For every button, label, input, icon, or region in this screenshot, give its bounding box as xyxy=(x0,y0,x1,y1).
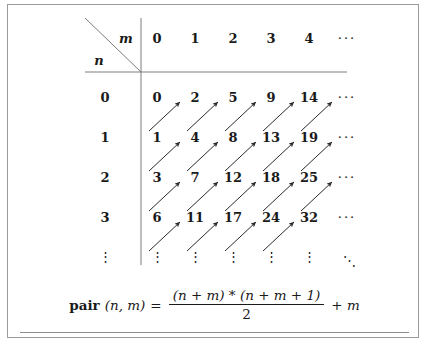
column-header-2: 2 xyxy=(228,32,237,45)
formula-numerator: (n + m) * (n + m + 1) xyxy=(169,287,325,304)
row-header-2: 2 xyxy=(100,171,109,184)
continuation-m2: ⋮ xyxy=(227,250,240,263)
table-cell-n3-m0: 6 xyxy=(152,211,161,224)
continuation-m1: ⋮ xyxy=(189,250,202,263)
row-1-ellipsis: ··· xyxy=(338,131,356,144)
row-2-ellipsis: ··· xyxy=(338,171,356,184)
row-0-ellipsis: ··· xyxy=(338,91,356,104)
continuation-diagonal-ellipsis: ⋱ xyxy=(343,254,356,267)
table-cell-n1-m3: 13 xyxy=(262,131,280,144)
axis-label-n: n xyxy=(94,54,103,67)
table-cell-n0-m0: 0 xyxy=(152,91,161,104)
table-cell-n1-m4: 19 xyxy=(300,131,318,144)
table-cell-n3-m2: 17 xyxy=(224,211,242,224)
row-header-1: 1 xyxy=(100,131,109,144)
table-cell-n0-m2: 5 xyxy=(228,91,237,104)
column-header-3: 3 xyxy=(266,32,275,45)
table-cell-n2-m1: 7 xyxy=(190,171,199,184)
table-cell-n3-m3: 24 xyxy=(262,211,280,224)
pair-function-formula: pair(n, m) = (n + m) * (n + m + 1) 2 + m xyxy=(0,287,429,322)
formula-arguments: (n, m) xyxy=(105,297,146,313)
table-cell-n0-m3: 9 xyxy=(266,91,275,104)
column-header-4: 4 xyxy=(304,32,313,45)
table-cell-n3-m4: 32 xyxy=(300,211,318,224)
row-3-ellipsis: ··· xyxy=(338,211,356,224)
table-cell-n0-m4: 14 xyxy=(300,91,318,104)
column-header-ellipsis: ··· xyxy=(338,32,356,45)
column-header-0: 0 xyxy=(152,32,161,45)
row-header-continuation: ⋮ xyxy=(99,250,112,263)
table-cell-n2-m2: 12 xyxy=(224,171,242,184)
bottom-rule xyxy=(20,332,409,333)
table-cell-n1-m2: 8 xyxy=(228,131,237,144)
table-cell-n2-m0: 3 xyxy=(152,171,161,184)
table-cell-n2-m3: 18 xyxy=(262,171,280,184)
table-cell-n0-m1: 2 xyxy=(190,91,199,104)
row-header-0: 0 xyxy=(100,91,109,104)
formula-equals: = xyxy=(150,297,161,313)
continuation-m4: ⋮ xyxy=(303,250,316,263)
table-cell-n2-m4: 25 xyxy=(300,171,318,184)
row-header-3: 3 xyxy=(100,211,109,224)
continuation-m0: ⋮ xyxy=(151,250,164,263)
formula-plus-term: + m xyxy=(331,297,359,313)
formula-fraction: (n + m) * (n + m + 1) 2 xyxy=(169,287,325,322)
figure-root: m n 0 1 2 3 4 ··· 0 0 2 5 9 14 ··· 1 1 4… xyxy=(0,0,429,343)
column-header-1: 1 xyxy=(190,32,199,45)
axis-label-m: m xyxy=(119,32,133,45)
formula-denominator: 2 xyxy=(238,305,255,322)
continuation-m3: ⋮ xyxy=(265,250,278,263)
table-cell-n3-m1: 11 xyxy=(186,211,204,224)
table-cell-n1-m1: 4 xyxy=(190,131,199,144)
table-cell-n1-m0: 1 xyxy=(152,131,161,144)
formula-function-name: pair xyxy=(69,297,99,313)
